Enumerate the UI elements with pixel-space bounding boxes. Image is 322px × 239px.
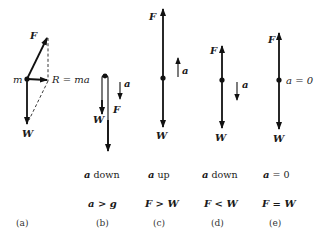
resultant-arrow (27, 79, 47, 80)
force-arrow (27, 38, 47, 79)
weight-label: W (93, 114, 106, 125)
condition-row-1: a down a up a down a = 0 (84, 169, 290, 180)
condition-e-2: F = W (261, 198, 297, 209)
accel-label: a (124, 78, 130, 89)
condition-b-2: a > g (88, 198, 117, 209)
panel-d: a F W (209, 45, 248, 143)
condition-c-1: a up (148, 169, 170, 180)
weight-label: W (273, 133, 286, 144)
mass-point (103, 74, 108, 79)
accel-label: a (182, 65, 188, 76)
mass-label: m (13, 74, 22, 85)
accel-label: a (242, 79, 248, 90)
force-label: F (29, 30, 38, 41)
caption-d: (d) (211, 218, 224, 228)
mass-point (24, 76, 29, 81)
panel-b: a F W (93, 74, 130, 151)
panel-c: a F W (148, 9, 188, 141)
force-label: F (112, 104, 121, 115)
condition-d-1: a down (202, 169, 238, 180)
condition-e-1: a = 0 (263, 169, 290, 180)
mass-point (160, 75, 165, 80)
caption-c: (c) (153, 218, 165, 228)
condition-d-2: F < W (203, 198, 239, 209)
condition-b-1: a down (84, 169, 120, 180)
condition-c-2: F > W (144, 198, 180, 209)
force-diagram: F m R = ma W a F W a F W a F W (0, 0, 322, 239)
caption-a: (a) (16, 218, 28, 228)
panel-captions: (a) (b) (c) (d) (e) (16, 218, 281, 228)
condition-row-2: a > g F > W F < W F = W (88, 198, 297, 209)
caption-b: (b) (96, 218, 109, 228)
weight-label: W (22, 128, 35, 139)
accel-label: a = 0 (286, 75, 314, 86)
force-label: F (267, 34, 276, 45)
force-label: F (209, 45, 218, 56)
force-label: F (148, 11, 157, 22)
mass-point (276, 77, 281, 82)
resultant-label: R = ma (51, 74, 90, 85)
dashed-diagonal (29, 81, 48, 120)
weight-label: W (215, 132, 228, 143)
caption-e: (e) (269, 218, 281, 228)
weight-label: W (156, 130, 169, 141)
panel-e: F a = 0 W (267, 33, 314, 144)
mass-point (219, 77, 224, 82)
panel-a: F m R = ma W (13, 30, 90, 139)
